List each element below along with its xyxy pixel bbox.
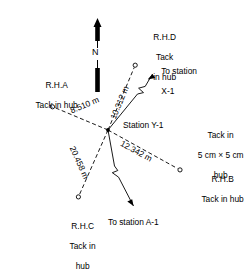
station-y1-point <box>106 128 110 132</box>
to-x1-line2: X-1 <box>161 86 174 96</box>
rh-b-id: B <box>228 174 234 184</box>
rh-b-note1: Tack in hub <box>201 194 243 204</box>
rh-b-prefix: R.H. <box>211 174 228 184</box>
label-station-y1: Station Y-1 <box>123 120 187 130</box>
label-rh-b: R.H.B Tack in hub <box>186 164 250 214</box>
label-to-station-a1: To station A-1 <box>108 217 218 227</box>
label-to-station-x1: To station X-1 <box>152 56 222 106</box>
rh-c-prefix: R.H. <box>71 221 88 231</box>
rh-a-id: A <box>62 80 68 90</box>
y1-note2: 5 cm × 5 cm <box>198 150 244 160</box>
y1-note1: Tack in <box>208 130 234 140</box>
rh-a-prefix: R.H. <box>45 80 62 90</box>
rh-d-prefix: R.H. <box>153 32 170 42</box>
rh-c-note2: hub <box>76 261 90 271</box>
label-rh-c: R.H.C Tack in hub <box>47 211 109 273</box>
rh-c-id: C <box>88 221 94 231</box>
to-x1-line1: To station <box>161 66 197 76</box>
rh-d-id: D <box>170 32 176 42</box>
rh-c-note1: Tack in <box>70 241 96 251</box>
label-rh-a: R.H.A Tack in hub <box>11 70 93 120</box>
north-label: N <box>92 47 99 57</box>
